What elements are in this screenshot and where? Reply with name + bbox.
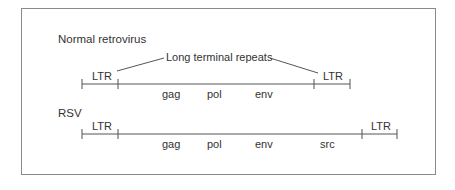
gene-gag: gag [162,89,180,100]
row-title-rsv: RSV [58,108,82,120]
ltr-label-left: LTR [92,71,112,82]
gene-env: env [255,89,273,100]
ltr-label-right: LTR [371,121,391,132]
genome-lines [0,0,455,190]
gene-src: src [320,139,335,150]
gene-env: env [255,139,273,150]
ltr-label-right: LTR [323,71,343,82]
gene-gag: gag [162,139,180,150]
rsv-genome [82,129,397,139]
gene-pol: pol [207,139,222,150]
annotation-long-terminal-repeats: Long terminal repeats [166,52,272,63]
ltr-label-left: LTR [92,121,112,132]
gene-pol: pol [207,89,222,100]
row-title-normal-retrovirus: Normal retrovirus [58,34,146,46]
